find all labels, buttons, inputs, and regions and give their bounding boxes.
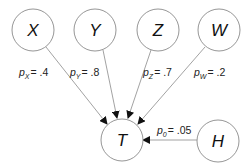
- prob-sub: Z: [148, 73, 154, 80]
- prob-value: = .05: [168, 124, 192, 136]
- node-t: T: [101, 119, 143, 161]
- edge-y-to-t: [103, 50, 117, 118]
- prob-value: = .2: [207, 66, 225, 78]
- prob-value: = .4: [31, 66, 49, 78]
- node-x-label: X: [26, 21, 39, 40]
- node-y-label: Y: [89, 21, 102, 40]
- node-x: X: [12, 9, 54, 51]
- node-t-label: T: [117, 131, 129, 150]
- prob-label-h: p0= .05: [156, 124, 192, 138]
- node-w: W: [198, 9, 240, 51]
- causal-diagram: X Y Z W T H pX= .4 pY= .8 pZ= .7 pW= .2 …: [0, 0, 250, 167]
- node-z: Z: [137, 9, 179, 51]
- prob-label-x: pX= .4: [18, 66, 48, 80]
- node-w-label: W: [211, 21, 229, 40]
- node-h-label: H: [212, 132, 225, 151]
- prob-label-w: pW= .2: [193, 66, 225, 80]
- prob-label-z: pZ= .7: [142, 66, 172, 80]
- edge-z-to-t: [128, 50, 151, 118]
- node-y: Y: [74, 9, 116, 51]
- prob-sub: 0: [163, 131, 167, 138]
- prob-label-y: pY= .8: [69, 66, 99, 80]
- edge-x-to-t: [46, 47, 107, 124]
- prob-sub: X: [24, 73, 30, 80]
- node-z-label: Z: [152, 21, 164, 40]
- node-h: H: [197, 120, 239, 162]
- prob-value: = .7: [154, 66, 172, 78]
- prob-value: = .8: [82, 66, 100, 78]
